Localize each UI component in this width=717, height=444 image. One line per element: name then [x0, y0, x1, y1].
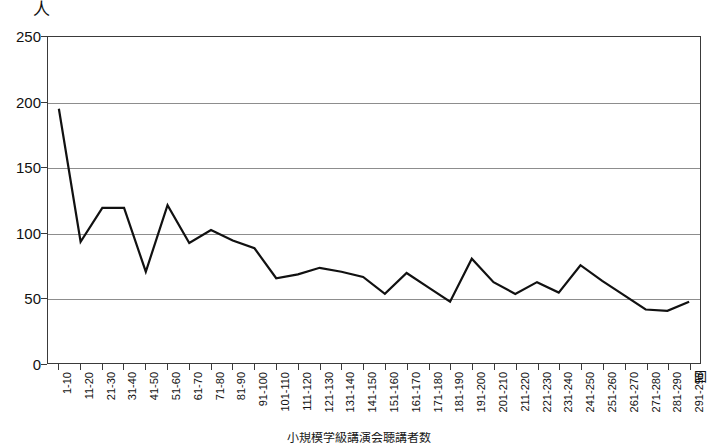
y-axis-tick-mark — [41, 298, 47, 299]
x-axis-tick-label: 111-120 — [302, 372, 313, 411]
x-axis-tick-label: 131-140 — [345, 372, 356, 412]
x-axis-tick-label: 251-260 — [607, 372, 618, 412]
x-axis-tick-label: 271-280 — [651, 372, 662, 412]
x-axis-tick-label: 171-180 — [433, 372, 444, 412]
y-axis-unit-label: 人 — [33, 0, 50, 20]
x-axis-unit-label: 回 — [694, 370, 707, 384]
x-axis-tick-label: 91-100 — [258, 372, 269, 406]
y-axis-tick-mark — [41, 233, 47, 234]
figure-caption: 小規模学級講演会聴講者数 — [0, 432, 717, 444]
x-axis-tick-label: 11-20 — [84, 372, 95, 399]
x-axis-tick-label: 261-270 — [629, 372, 640, 412]
x-axis-tick-label: 51-60 — [171, 372, 182, 400]
y-axis-tick-label: 0 — [5, 357, 41, 372]
x-axis-tick-label: 151-160 — [389, 372, 400, 412]
x-axis-tick-label: 161-170 — [411, 372, 422, 412]
x-axis-tick-label: 61-70 — [193, 372, 204, 400]
x-axis-tick-label: 241-250 — [585, 372, 596, 412]
x-axis-tick-label: 211-220 — [520, 372, 531, 412]
plot-area — [47, 36, 701, 364]
x-axis-tick-label: 201-210 — [498, 372, 509, 412]
x-axis-tick-label: 101-110 — [280, 372, 291, 412]
x-axis-tick-label: 41-50 — [149, 372, 160, 400]
data-series-line — [48, 37, 700, 363]
x-axis-tick-label: 141-150 — [367, 372, 378, 412]
x-axis-tick-label: 121-130 — [324, 372, 335, 412]
x-axis-tick-label: 81-90 — [236, 372, 247, 400]
y-axis-tick-mark — [41, 167, 47, 168]
y-axis-tick-label: 200 — [5, 95, 41, 110]
y-axis-tick-label: 250 — [5, 29, 41, 44]
line-chart-figure: 人 250200150100500 1-1011-2021-3031-4041-… — [0, 0, 717, 444]
x-axis-tick-label: 281-290 — [672, 372, 683, 412]
y-axis-tick-label: 50 — [5, 291, 41, 306]
y-axis-tick-mark — [41, 102, 47, 103]
x-axis-tick-label: 231-240 — [563, 372, 574, 412]
x-axis-tick-label: 221-230 — [542, 372, 553, 412]
x-axis-tick-label: 71-80 — [215, 372, 226, 400]
y-axis-tick-mark — [41, 36, 47, 37]
x-axis-tick-labels: 1-1011-2021-3031-4041-5051-6061-7071-808… — [47, 364, 701, 428]
y-axis-tick-label: 150 — [5, 160, 41, 175]
y-axis-tick-labels: 250200150100500 — [0, 36, 41, 364]
x-axis-tick-label: 1-10 — [62, 372, 73, 394]
x-axis-tick-label: 21-30 — [106, 372, 117, 400]
x-axis-tick-label: 191-200 — [476, 372, 487, 412]
y-axis-tick-label: 100 — [5, 226, 41, 241]
x-axis-tick-label: 31-40 — [127, 372, 138, 400]
x-axis-tick-label: 181-190 — [454, 372, 465, 412]
